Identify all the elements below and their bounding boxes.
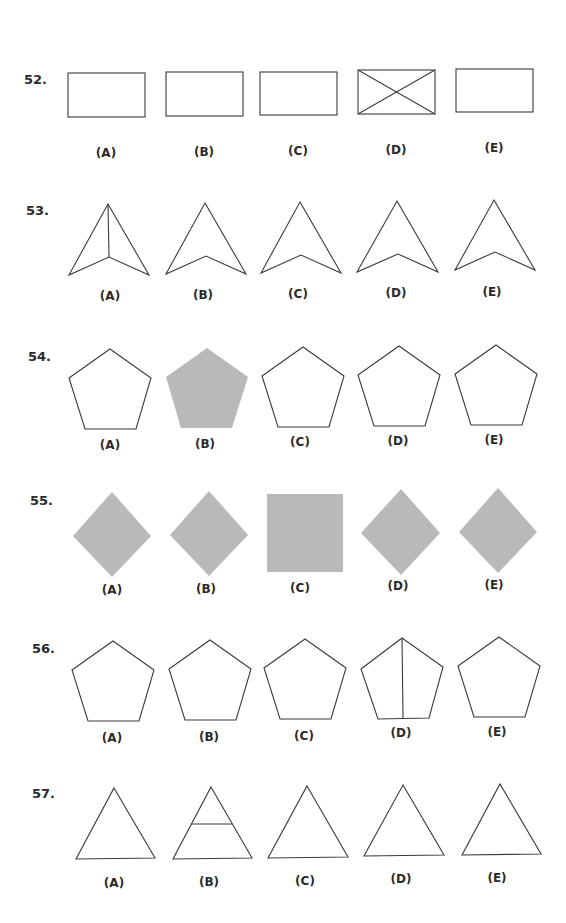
option-e[interactable]: (E) [462, 784, 541, 885]
figure-polygon-c [262, 347, 344, 427]
option-a[interactable]: (A) [69, 349, 151, 452]
question-number: 56. [32, 641, 55, 656]
option-label: (C) [294, 729, 314, 743]
option-label: (D) [391, 872, 412, 886]
option-label: (D) [386, 143, 407, 157]
figure-polygon-e [455, 345, 537, 425]
option-b[interactable]: (B) [166, 348, 248, 451]
figure-polygon-a [73, 492, 151, 577]
option-c[interactable]: (C) [267, 494, 343, 595]
option-c[interactable]: (C) [264, 639, 346, 743]
figure-polygon-a [72, 641, 154, 721]
option-c[interactable]: (C) [260, 72, 337, 158]
figure-rectangle-c [267, 494, 343, 572]
option-d[interactable]: (D) [364, 785, 444, 886]
figure-polygon-b [166, 348, 248, 428]
figure-polygon-b [170, 491, 248, 576]
option-d[interactable]: (D) [357, 201, 438, 300]
option-label: (D) [386, 286, 407, 300]
question-56: 56.(A)(B)(C)(D)(E) [32, 637, 540, 745]
figure-polygon-d [364, 785, 444, 856]
question-number: 55. [30, 493, 53, 508]
figure-polygon-d [358, 346, 440, 426]
option-label: (C) [290, 435, 310, 449]
figure-rectangle-e [456, 69, 533, 112]
option-e[interactable]: (E) [455, 200, 535, 299]
option-c[interactable]: (C) [262, 347, 344, 449]
figure-polygon-b [166, 203, 246, 274]
option-label: (C) [288, 144, 308, 158]
figure-rectangle-a [68, 73, 145, 117]
option-label: (A) [100, 438, 120, 452]
question-53: 53.(A)(B)(C)(D)(E) [26, 200, 535, 303]
option-label: (C) [295, 874, 315, 888]
figure-polygon-b [169, 640, 251, 720]
option-d[interactable]: (D) [361, 489, 440, 593]
option-label: (B) [196, 582, 216, 596]
option-label: (D) [388, 579, 409, 593]
option-a[interactable]: (A) [69, 204, 149, 303]
option-label: (B) [199, 875, 219, 889]
figure-polygon-a [76, 788, 155, 859]
figure-polygon-c [261, 202, 341, 273]
figure-inner-line [402, 638, 403, 718]
option-label: (A) [104, 876, 124, 890]
figure-polygon-d [357, 201, 438, 272]
option-label: (E) [484, 578, 503, 592]
figure-polygon-e [459, 488, 537, 573]
option-d[interactable]: (D) [358, 70, 435, 157]
question-number: 53. [26, 203, 49, 218]
option-b[interactable]: (B) [166, 72, 243, 159]
option-a[interactable]: (A) [68, 73, 145, 160]
option-label: (A) [102, 731, 122, 745]
option-label: (E) [487, 725, 506, 739]
option-label: (B) [194, 145, 214, 159]
option-a[interactable]: (A) [76, 788, 155, 890]
figure-polygon-c [264, 639, 346, 719]
option-label: (C) [288, 287, 308, 301]
option-label: (E) [484, 433, 503, 447]
question-54: 54.(A)(B)(C)(D)(E) [28, 345, 537, 452]
option-label: (A) [102, 583, 122, 597]
figure-polygon-e [455, 200, 535, 270]
option-e[interactable]: (E) [455, 345, 537, 447]
figure-polygon-a [69, 349, 151, 429]
option-b[interactable]: (B) [170, 491, 248, 596]
option-label: (D) [391, 726, 412, 740]
option-b[interactable]: (B) [169, 640, 251, 744]
option-c[interactable]: (C) [261, 202, 341, 301]
option-b[interactable]: (B) [173, 787, 252, 889]
figure-polygon-b [173, 787, 252, 859]
option-e[interactable]: (E) [459, 488, 537, 592]
figure-rectangle-b [166, 72, 243, 116]
option-b[interactable]: (B) [166, 203, 246, 302]
option-e[interactable]: (E) [456, 69, 533, 155]
question-55: 55.(A)(B)(C)(D)(E) [30, 488, 537, 597]
option-label: (B) [195, 437, 215, 451]
option-label: (E) [487, 871, 506, 885]
figure-polygon-e [458, 637, 540, 717]
question-52: 52.(A)(B)(C)(D)(E) [24, 69, 533, 160]
question-57: 57.(A)(B)(C)(D)(E) [32, 784, 541, 890]
option-e[interactable]: (E) [458, 637, 540, 739]
figure-polygon-c [268, 786, 348, 858]
option-d[interactable]: (D) [358, 346, 440, 448]
question-number: 57. [32, 786, 55, 801]
option-label: (E) [482, 285, 501, 299]
figure-rectangle-c [260, 72, 337, 115]
figure-polygon-e [462, 784, 541, 855]
option-a[interactable]: (A) [72, 641, 154, 745]
figure-polygon-d [361, 489, 440, 575]
option-label: (B) [199, 730, 219, 744]
option-label: (E) [484, 141, 503, 155]
option-label: (C) [290, 581, 310, 595]
option-label: (B) [193, 288, 213, 302]
option-c[interactable]: (C) [268, 786, 348, 888]
question-page: 52.(A)(B)(C)(D)(E)53.(A)(B)(C)(D)(E)54.(… [0, 0, 566, 923]
option-a[interactable]: (A) [73, 492, 151, 597]
question-number: 54. [28, 349, 51, 364]
option-label: (D) [388, 434, 409, 448]
option-d[interactable]: (D) [361, 638, 443, 740]
option-label: (A) [100, 289, 120, 303]
figures-canvas: 52.(A)(B)(C)(D)(E)53.(A)(B)(C)(D)(E)54.(… [0, 0, 566, 923]
